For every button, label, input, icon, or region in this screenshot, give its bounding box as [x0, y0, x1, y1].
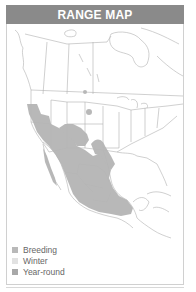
bottom-divider [6, 287, 184, 288]
range-map-image [7, 24, 183, 239]
legend-label: Year-round [23, 267, 65, 277]
year-round-swatch [12, 269, 18, 275]
range-map-header: RANGE MAP [6, 5, 184, 24]
legend-label: Winter [23, 256, 48, 266]
legend-item-winter: Winter [12, 256, 65, 266]
legend-label: Breeding [23, 245, 57, 255]
range-map-title: RANGE MAP [57, 8, 132, 22]
legend-item-year-round: Year-round [12, 267, 65, 277]
winter-swatch [12, 258, 18, 264]
range-map-legend: Breeding Winter Year-round [12, 245, 65, 278]
legend-item-breeding: Breeding [12, 245, 65, 255]
breeding-swatch [12, 247, 18, 253]
